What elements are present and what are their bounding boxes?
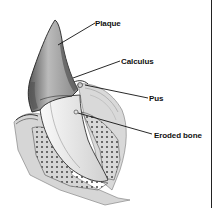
label-plaque: Plaque (95, 19, 121, 28)
label-eroded-bone: Eroded bone (154, 131, 202, 140)
label-pus: Pus (149, 94, 163, 103)
calculus-leader (73, 61, 120, 78)
plaque-leader (58, 23, 95, 45)
frame-border (211, 0, 212, 208)
tooth-diagram (0, 0, 217, 208)
label-calculus: Calculus (121, 57, 154, 66)
